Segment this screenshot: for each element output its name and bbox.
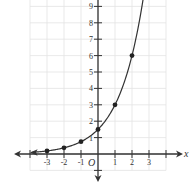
data-point <box>96 127 101 132</box>
x-tick-label: -2 <box>61 158 68 167</box>
y-tick-label: 7 <box>89 35 93 44</box>
data-point <box>79 139 84 144</box>
axes <box>14 0 183 182</box>
exponential-graph: -3-2-1123123456789 x O <box>0 0 192 184</box>
x-axis-label: x <box>183 148 189 159</box>
y-tick-label: 9 <box>89 2 93 11</box>
y-tick-label: 8 <box>89 19 93 28</box>
data-point <box>62 145 67 150</box>
tick-labels: -3-2-1123123456789 <box>44 2 151 167</box>
origin-label: O <box>88 157 95 168</box>
data-point <box>130 53 135 58</box>
x-tick-label: -1 <box>78 158 85 167</box>
y-tick-label: 3 <box>89 101 93 110</box>
x-tick-label: 1 <box>113 158 117 167</box>
data-point <box>45 149 50 154</box>
x-tick-label: -3 <box>44 158 51 167</box>
y-tick-label: 2 <box>89 117 93 126</box>
y-tick-label: 5 <box>89 68 93 77</box>
data-point <box>113 102 118 107</box>
y-tick-label: 6 <box>89 52 93 61</box>
x-tick-label: 3 <box>147 158 151 167</box>
y-tick-label: 4 <box>89 84 93 93</box>
x-tick-label: 2 <box>130 158 134 167</box>
